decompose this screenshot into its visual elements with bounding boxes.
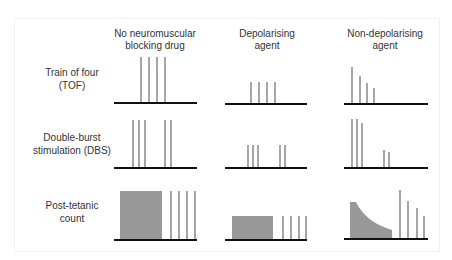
twitch-bar	[132, 120, 134, 168]
tetanic-fade-curve	[350, 202, 392, 239]
twitch-bar	[250, 82, 252, 104]
twitch-bar	[366, 83, 368, 104]
twitch-bar	[257, 145, 259, 168]
twitch-bar	[416, 208, 418, 239]
twitch-bar	[359, 76, 361, 104]
twitch-bar	[290, 216, 292, 240]
twitch-bar	[164, 57, 166, 103]
tetanic-block	[232, 216, 273, 240]
twitch-bar	[144, 120, 146, 168]
twitch-bar	[148, 57, 150, 103]
twitch-bar	[305, 216, 307, 240]
twitch-bar	[258, 82, 260, 104]
twitch-bar	[284, 145, 286, 168]
twitch-response-diagram	[0, 0, 452, 260]
twitch-bar	[399, 190, 401, 239]
twitch-bar	[170, 191, 172, 240]
twitch-bar	[351, 119, 353, 168]
twitch-bar	[138, 120, 140, 168]
twitch-bar	[178, 191, 180, 240]
twitch-bar	[407, 201, 409, 239]
twitch-bar	[274, 82, 276, 104]
twitch-bar	[279, 145, 281, 168]
twitch-bar	[388, 152, 390, 168]
twitch-bar	[351, 67, 353, 104]
twitch-bar	[361, 123, 363, 168]
twitch-bar	[194, 191, 196, 240]
twitch-bar	[252, 145, 254, 168]
twitch-bar	[373, 88, 375, 104]
twitch-bar	[383, 150, 385, 168]
twitch-bar	[298, 216, 300, 240]
twitch-bar	[170, 120, 172, 168]
twitch-bar	[282, 216, 284, 240]
twitch-bar	[164, 120, 166, 168]
twitch-bar	[156, 57, 158, 103]
twitch-bar	[247, 145, 249, 168]
twitch-bar	[266, 82, 268, 104]
twitch-bar	[356, 119, 358, 168]
tetanic-block	[120, 191, 162, 240]
twitch-bar	[423, 216, 425, 239]
twitch-bar	[140, 57, 142, 103]
twitch-bar	[186, 191, 188, 240]
